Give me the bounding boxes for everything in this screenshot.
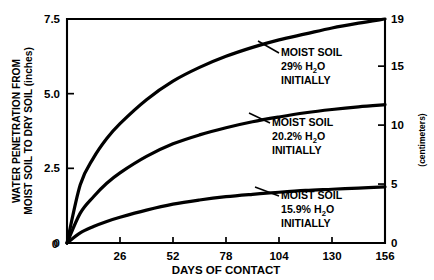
y-tick-label-right: 0 (391, 237, 397, 249)
y-axis-title-line1: WATER PENETRATION FROM (11, 59, 22, 203)
annotation-line2: 29% H2O (281, 60, 325, 75)
y-axis-title-line2: MOIST SOIL TO DRY SOIL (inches) (23, 47, 34, 215)
y-tick-label-right: 19 (391, 13, 404, 25)
y-tick-label-right: 5 (391, 178, 398, 190)
annotation-line2: 15.9% H2O (281, 203, 334, 218)
x-tick-label: 104 (269, 250, 289, 262)
y-tick-label-right: 15 (391, 60, 404, 72)
annotation-line1: MOIST SOIL (281, 46, 343, 58)
y-axis-tick-labels-right: 05101519 (391, 13, 404, 249)
x-axis-tick-labels: 0265278104130156 (52, 238, 395, 262)
y-axis-title-right: (centimeters) (417, 113, 427, 167)
series-annotations: MOIST SOIL29% H2OINITIALLYMOIST SOIL20.2… (272, 46, 343, 229)
annotation-line1: MOIST SOIL (272, 116, 334, 128)
y-tick-label-left: 5.0 (44, 88, 60, 100)
y-tick-label-right: 10 (391, 119, 404, 131)
chart-figure: 0265278104130156 02.55.07.5 05101519 MOI… (0, 0, 434, 280)
annotation-line3: INITIALLY (281, 217, 331, 229)
annotation-line3: INITIALLY (281, 74, 331, 86)
x-tick-label: 156 (375, 250, 394, 262)
x-tick-label: 130 (322, 250, 341, 262)
water-penetration-line-chart: 0265278104130156 02.55.07.5 05101519 MOI… (0, 0, 434, 280)
x-tick-label: 26 (114, 250, 127, 262)
y-axis-tick-labels-left: 02.55.07.5 (44, 13, 61, 249)
y-tick-label-left: 0 (54, 237, 60, 249)
y-tick-label-left: 7.5 (44, 13, 61, 25)
y-tick-label-left: 2.5 (44, 162, 61, 174)
annotation-label-1: MOIST SOIL20.2% H2OINITIALLY (272, 116, 334, 156)
series-curve-1 (67, 105, 385, 243)
annotation-label-2: MOIST SOIL15.9% H2OINITIALLY (281, 189, 343, 229)
x-axis-title: DAYS OF CONTACT (172, 264, 281, 276)
annotation-line2: 20.2% H2O (272, 130, 325, 145)
x-tick-label: 52 (167, 250, 180, 262)
annotation-line1: MOIST SOIL (281, 189, 343, 201)
x-tick-label: 78 (220, 250, 233, 262)
annotation-line3: INITIALLY (272, 144, 322, 156)
annotation-label-0: MOIST SOIL29% H2OINITIALLY (281, 46, 343, 86)
